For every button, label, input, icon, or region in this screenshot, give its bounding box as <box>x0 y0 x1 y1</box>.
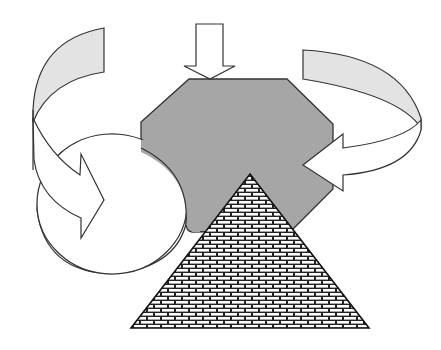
diagram-svg <box>0 0 441 350</box>
diagram-canvas <box>0 0 441 350</box>
top-down-arrow <box>184 24 235 79</box>
